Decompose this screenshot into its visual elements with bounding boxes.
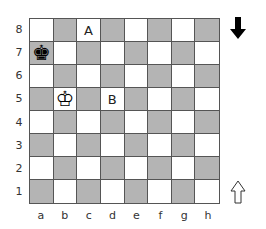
square-b5: ♔ <box>54 88 78 111</box>
file-label: c <box>77 209 101 222</box>
file-label: d <box>101 209 125 222</box>
square-f4 <box>148 111 172 134</box>
square-b2 <box>54 157 78 180</box>
file-label: h <box>196 209 220 222</box>
square-c6 <box>77 65 101 88</box>
square-h8 <box>195 19 219 42</box>
rank-label: 4 <box>14 116 24 129</box>
chess-board: A♚♔B <box>29 18 220 204</box>
square-g2 <box>172 157 196 180</box>
square-c4 <box>77 111 101 134</box>
white-king-icon: ♔ <box>56 89 75 110</box>
square-marker: A <box>84 23 93 38</box>
square-a5 <box>30 88 54 111</box>
square-a1 <box>30 180 54 203</box>
square-c8: A <box>77 19 101 42</box>
square-e5 <box>125 88 149 111</box>
file-label: a <box>29 209 53 222</box>
square-d8 <box>101 19 125 42</box>
square-g5 <box>172 88 196 111</box>
square-e1 <box>125 180 149 203</box>
arrow-down-filled-icon <box>230 17 246 39</box>
rank-label: 1 <box>14 185 24 198</box>
square-h6 <box>195 65 219 88</box>
square-g1 <box>172 180 196 203</box>
square-e2 <box>125 157 149 180</box>
rank-label: 3 <box>14 139 24 152</box>
square-e8 <box>125 19 149 42</box>
square-c3 <box>77 134 101 157</box>
rank-label: 7 <box>14 46 24 59</box>
square-g8 <box>172 19 196 42</box>
square-c7 <box>77 42 101 65</box>
square-b3 <box>54 134 78 157</box>
square-e7 <box>125 42 149 65</box>
square-e4 <box>125 111 149 134</box>
square-h1 <box>195 180 219 203</box>
square-a3 <box>30 134 54 157</box>
square-g3 <box>172 134 196 157</box>
square-b8 <box>54 19 78 42</box>
rank-label: 6 <box>14 69 24 82</box>
square-h2 <box>195 157 219 180</box>
square-e6 <box>125 65 149 88</box>
square-f2 <box>148 157 172 180</box>
square-a7: ♚ <box>30 42 54 65</box>
square-f7 <box>148 42 172 65</box>
square-h3 <box>195 134 219 157</box>
square-d1 <box>101 180 125 203</box>
square-b7 <box>54 42 78 65</box>
square-a2 <box>30 157 54 180</box>
arrow-up-outline-icon <box>230 180 246 204</box>
square-f8 <box>148 19 172 42</box>
file-label: b <box>53 209 77 222</box>
square-f1 <box>148 180 172 203</box>
square-f6 <box>148 65 172 88</box>
rank-label: 5 <box>14 92 24 105</box>
rank-label: 2 <box>14 162 24 175</box>
square-h4 <box>195 111 219 134</box>
square-d2 <box>101 157 125 180</box>
square-b4 <box>54 111 78 134</box>
square-g7 <box>172 42 196 65</box>
square-b6 <box>54 65 78 88</box>
square-f3 <box>148 134 172 157</box>
square-d5: B <box>101 88 125 111</box>
square-d4 <box>101 111 125 134</box>
square-g6 <box>172 65 196 88</box>
square-marker: B <box>108 92 117 107</box>
black-king-icon: ♚ <box>32 43 51 64</box>
square-e3 <box>125 134 149 157</box>
square-c2 <box>77 157 101 180</box>
square-c1 <box>77 180 101 203</box>
square-b1 <box>54 180 78 203</box>
file-label: f <box>148 209 172 222</box>
square-g4 <box>172 111 196 134</box>
square-h5 <box>195 88 219 111</box>
square-a8 <box>30 19 54 42</box>
square-h7 <box>195 42 219 65</box>
square-d3 <box>101 134 125 157</box>
square-c5 <box>77 88 101 111</box>
square-d7 <box>101 42 125 65</box>
square-d6 <box>101 65 125 88</box>
square-f5 <box>148 88 172 111</box>
square-a4 <box>30 111 54 134</box>
rank-label: 8 <box>14 23 24 36</box>
square-a6 <box>30 65 54 88</box>
file-label: e <box>125 209 149 222</box>
file-label: g <box>172 209 196 222</box>
